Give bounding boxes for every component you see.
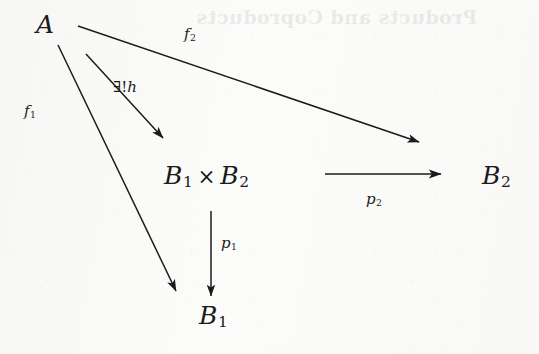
commutative-diagram-canvas: Products and Coproducts A B1×B2 B1 B2 f1… — [0, 0, 539, 354]
f1-base: f — [24, 102, 30, 120]
object-label-product: B1×B2 — [164, 163, 249, 191]
arrow-unique-h — [86, 54, 163, 138]
b2-base: B — [482, 161, 500, 190]
product-left-sub: 1 — [182, 173, 192, 191]
edge-label-f2: f2 — [184, 27, 196, 42]
edge-label-p2: p2 — [366, 192, 382, 207]
b2-sub: 2 — [500, 173, 510, 191]
b1-base: B — [199, 301, 217, 330]
p2-base: p — [366, 190, 376, 208]
f2-sub: 2 — [190, 32, 196, 43]
product-right-base: B — [220, 161, 238, 190]
edge-label-unique-h: ∃!h — [113, 80, 137, 95]
f2-base: f — [184, 25, 190, 43]
h-base: h — [127, 78, 137, 96]
p2-sub: 2 — [376, 197, 382, 208]
object-label-b1: B1 — [199, 303, 228, 331]
exists-unique-quantifier: ∃! — [113, 78, 127, 96]
times-sign: × — [193, 164, 220, 189]
b1-sub: 1 — [217, 313, 227, 331]
product-right-sub: 2 — [239, 173, 249, 191]
object-label-b2: B2 — [482, 163, 511, 191]
object-label-a: A — [36, 12, 54, 37]
p1-sub: 1 — [231, 241, 237, 252]
edge-label-p1: p1 — [221, 236, 237, 251]
product-left-base: B — [164, 161, 182, 190]
p1-base: p — [221, 234, 231, 252]
edge-label-f1: f1 — [24, 104, 36, 119]
arrow-layer — [0, 0, 539, 354]
f1-sub: 1 — [30, 109, 36, 120]
